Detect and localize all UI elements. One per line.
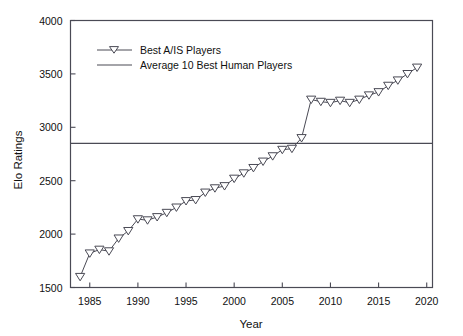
y-tick-label: 3500 <box>39 68 63 80</box>
x-tick-label: 1995 <box>174 295 198 307</box>
x-tick-label: 1985 <box>78 295 102 307</box>
y-axis-title: Elo Ratings <box>12 130 24 189</box>
y-tick-label: 2500 <box>39 175 63 187</box>
x-tick-label: 1990 <box>126 295 150 307</box>
elo-ratings-chart: 150020002500300035004000 198519901995200… <box>0 0 463 336</box>
legend-label-human: Average 10 Best Human Players <box>140 59 292 71</box>
x-axis-title: Year <box>239 318 262 330</box>
chart-background <box>0 0 463 336</box>
x-tick-label: 2010 <box>319 295 343 307</box>
y-tick-label: 3000 <box>39 121 63 133</box>
legend-label-ai: Best A/IS Players <box>140 44 221 56</box>
y-tick-label: 2000 <box>39 228 63 240</box>
x-tick-label: 2020 <box>415 295 439 307</box>
y-tick-label: 1500 <box>39 282 63 294</box>
y-tick-label: 4000 <box>39 15 63 27</box>
x-tick-label: 2005 <box>271 295 295 307</box>
chart-canvas: 150020002500300035004000 198519901995200… <box>0 0 463 336</box>
x-tick-label: 2015 <box>367 295 391 307</box>
x-tick-label: 2000 <box>222 295 246 307</box>
